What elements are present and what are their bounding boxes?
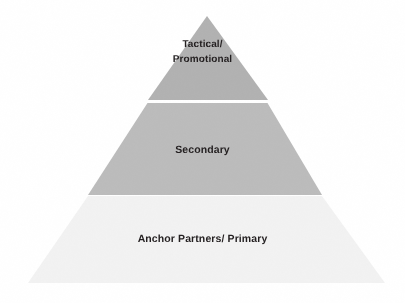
pyramid-tier-top[interactable]: [148, 16, 268, 100]
pyramid-shape-layer: [0, 0, 405, 303]
pyramid-tier-bottom[interactable]: [28, 196, 385, 283]
pyramid-diagram: Tactical/ Promotional Secondary Anchor P…: [0, 0, 405, 303]
pyramid-tier-middle[interactable]: [88, 103, 322, 195]
